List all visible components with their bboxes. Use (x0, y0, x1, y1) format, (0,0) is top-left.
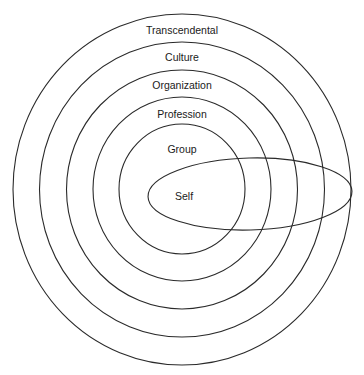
labels-group: Transcendental Culture Organization Prof… (146, 24, 218, 202)
label-self: Self (175, 190, 193, 202)
label-culture: Culture (165, 51, 199, 63)
label-transcendental: Transcendental (146, 24, 218, 36)
label-profession: Profession (157, 108, 207, 120)
label-group: Group (167, 143, 196, 155)
nested-contexts-diagram: Transcendental Culture Organization Prof… (0, 0, 364, 375)
label-organization: Organization (152, 79, 212, 91)
